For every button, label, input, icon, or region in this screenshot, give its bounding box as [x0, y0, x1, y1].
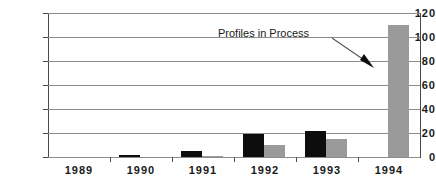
bar-1992-series-1 [243, 134, 264, 157]
annotation-text: Profiles in Process [218, 27, 309, 39]
bar-1990-series-1 [119, 155, 140, 157]
bar-1992-series-2 [264, 145, 285, 157]
gridline [48, 109, 420, 110]
gridline [48, 13, 420, 14]
gridline [48, 85, 420, 86]
x-axis-tick [296, 157, 297, 162]
bar-1991-series-1 [181, 151, 202, 157]
gridline [48, 133, 420, 134]
right-axis-line [420, 13, 421, 158]
x-axis-label-1990: 1990 [110, 164, 172, 176]
x-axis-tick [172, 157, 173, 162]
bar-1991-series-2 [202, 156, 223, 157]
x-axis-label-1994: 1994 [358, 164, 420, 176]
gridline [48, 61, 420, 62]
x-axis-tick [110, 157, 111, 162]
x-axis-label-1989: 1989 [48, 164, 110, 176]
x-axis-label-1991: 1991 [172, 164, 234, 176]
bar-1993-series-1 [305, 131, 326, 157]
bar-1993-series-2 [326, 139, 347, 157]
x-axis-tick [234, 157, 235, 162]
x-axis-tick [358, 157, 359, 162]
bar-1994-series-2 [388, 25, 409, 157]
bar-chart: 120 100 80 60 40 20 0 1989 1990 1991 199… [0, 0, 436, 196]
x-axis-label-1992: 1992 [234, 164, 296, 176]
x-axis-label-1993: 1993 [296, 164, 358, 176]
